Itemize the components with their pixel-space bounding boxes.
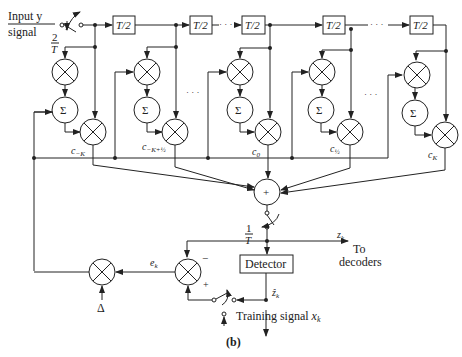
input-label-line2: signal [8,25,37,39]
error-label: ek [150,257,158,270]
delay-label-2: T/2 [193,19,208,31]
delay-label-5: T/2 [413,19,428,31]
input-label-line1: Input y [8,9,42,23]
delay-label-4: T/2 [326,19,341,31]
delay-label-1: T/2 [116,19,131,31]
output-label: zk [336,229,345,242]
sigma-icon: Σ [60,104,66,116]
rate-2-denominator: T [51,43,58,55]
sigma-icon: Σ [316,104,322,116]
rate-1-numerator: 1 [246,222,252,234]
output-switch-contact [265,211,269,215]
fractionally-spaced-equalizer-diagram: Input y signal 2 T T/2 T/2 · · · T/2 T/2… [0,0,462,357]
output-dest-line2: decoders [339,255,382,269]
figure-caption: (b) [226,335,241,349]
delay-ellipsis: · · · [370,19,384,29]
coef-label-5: cK [428,149,437,162]
rate-2-numerator: 2 [52,31,58,43]
detector-label: Detector [245,257,286,271]
coef-label-1: c−K [71,145,85,158]
sigma-icon: Σ [142,104,148,116]
input-switch-contact [79,23,83,27]
minus-sign: − [202,252,208,264]
training-switch-contact [222,312,226,316]
rate-1-denominator: T [245,234,252,246]
sigma-icon: Σ [235,104,241,116]
detector-output-label: ẑk [271,287,280,300]
input-switch-contact [60,23,64,27]
output-dest-line1: To [353,242,366,256]
delay-label-3: T/2 [245,19,260,31]
training-switch-contact [232,298,236,302]
input-switch-blade [63,24,76,32]
delta-label: Δ [97,301,105,315]
coef-label-3: c0 [252,146,260,159]
plus-icon: + [263,186,269,198]
training-label: Training signal xk [236,309,321,324]
delay-ellipsis: · · · [219,19,233,29]
coef-label-2: c−K+½ [142,141,167,154]
sigma-icon: Σ [410,107,416,119]
training-switch-contact [212,298,216,302]
tap-ellipsis: · · · [364,89,378,99]
coef-label-4: c½ [330,143,340,156]
switch-rotation-arrow-icon [222,290,228,305]
tap-ellipsis: · · · [186,87,200,97]
plus-sign: + [203,279,209,290]
